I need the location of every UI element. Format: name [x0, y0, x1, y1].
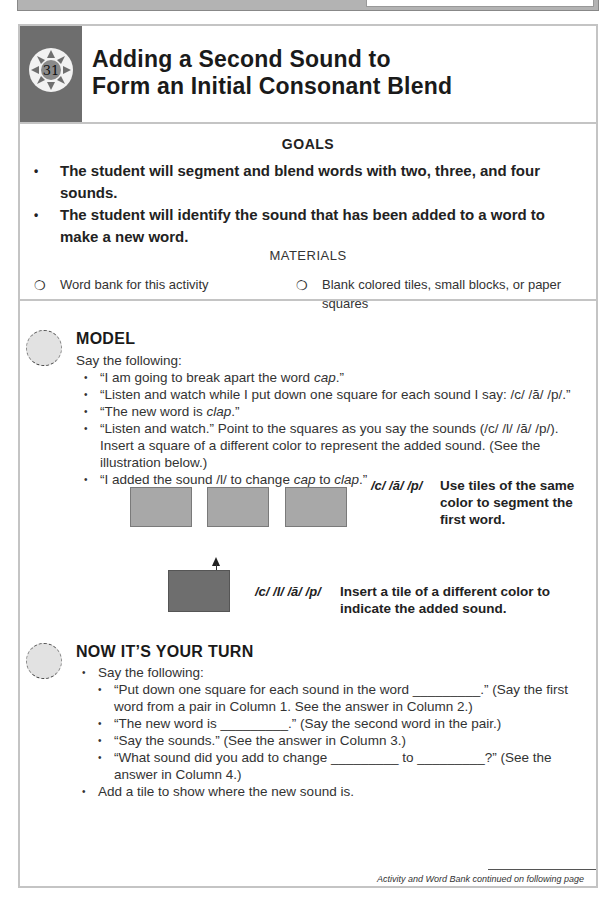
- goal-item: The student will segment and blend words…: [34, 160, 579, 204]
- model-steps: “I am going to break apart the word cap.…: [84, 369, 589, 488]
- svg-text:31: 31: [43, 63, 60, 78]
- circle-checkbox-icon: ❍: [296, 276, 308, 295]
- material-label: Word bank for this activity: [34, 275, 274, 294]
- section-circle-icon: [26, 643, 62, 679]
- model-intro: Say the following:: [76, 352, 182, 369]
- previous-page-strip: [17, 0, 599, 11]
- title-line-1: Adding a Second Sound to: [92, 46, 452, 73]
- material-label: Blank colored tiles, small blocks, or pa…: [296, 275, 576, 313]
- continued-note: Activity and Word Bank continued on foll…: [377, 874, 584, 884]
- sunburst-number-icon: 31: [26, 44, 76, 96]
- section-circle-icon: [26, 330, 62, 366]
- circle-checkbox-icon: ❍: [34, 276, 46, 295]
- material-item: ❍ Word bank for this activity: [34, 275, 274, 294]
- your-turn-substep: “The new word is _________.” (Say the se…: [98, 715, 592, 732]
- first-word-sounds: /c/ /ă/ /p/: [371, 478, 422, 493]
- section-divider: [20, 299, 596, 301]
- your-turn-heading: NOW IT’S YOUR TURN: [76, 643, 254, 661]
- material-item: ❍ Blank colored tiles, small blocks, or …: [296, 275, 576, 313]
- new-word-caption: Insert a tile of a different color to in…: [340, 583, 570, 617]
- your-turn-step: Say the following: “Put down one square …: [82, 664, 592, 783]
- tile-3: [285, 487, 347, 527]
- your-turn-substep: “Say the sounds.” (See the answer in Col…: [98, 732, 592, 749]
- tile-2: [207, 487, 269, 527]
- model-step: “I am going to break apart the word cap.…: [84, 369, 589, 386]
- activity-title: Adding a Second Sound to Form an Initial…: [92, 46, 452, 100]
- your-turn-substeps: “Put down one square for each sound in t…: [98, 681, 592, 783]
- model-step: “The new word is clap.”: [84, 403, 589, 420]
- title-line-2: Form an Initial Consonant Blend: [92, 73, 452, 100]
- first-word-caption: Use tiles of the same color to segment t…: [440, 477, 580, 528]
- previous-page-box: [366, 0, 594, 7]
- goals-list: The student will segment and blend words…: [34, 160, 579, 248]
- tile-1: [130, 487, 192, 527]
- model-step: “Listen and watch.” Point to the squares…: [84, 420, 589, 471]
- activity-card: 31 Adding a Second Sound to Form an Init…: [18, 24, 598, 888]
- footer-rule: [488, 869, 596, 870]
- goals-heading: GOALS: [20, 136, 596, 152]
- your-turn-substep: “Put down one square for each sound in t…: [98, 681, 592, 715]
- model-step: “Listen and watch while I put down one s…: [84, 386, 589, 403]
- your-turn-step: Add a tile to show where the new sound i…: [82, 783, 592, 800]
- added-tile: [168, 570, 230, 612]
- materials-heading: MATERIALS: [20, 248, 596, 263]
- model-heading: MODEL: [76, 330, 135, 348]
- new-word-sounds: /c/ /l/ /ă/ /p/: [255, 584, 321, 599]
- your-turn-steps: Say the following: “Put down one square …: [82, 664, 592, 800]
- your-turn-substep: “What sound did you add to change ______…: [98, 749, 592, 783]
- activity-badge: 31: [20, 26, 82, 122]
- activity-header: 31 Adding a Second Sound to Form an Init…: [20, 26, 596, 124]
- goal-item: The student will identify the sound that…: [34, 204, 579, 248]
